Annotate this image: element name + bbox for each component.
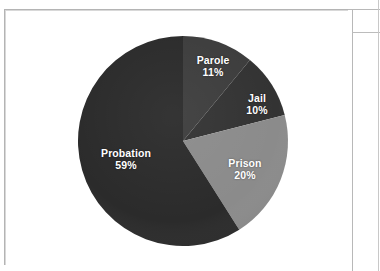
slice-label-probation-name: Probation [101,148,151,160]
slice-label-jail-name: Jail [246,93,267,105]
pie-svg [5,10,348,265]
side-panel-vertical-rule [352,9,353,271]
page-canvas: Parole 11% Jail 10% Prison 20% Probation… [0,0,380,271]
slice-label-prison-name: Prison [228,158,261,170]
pie-shading-overlay [78,36,288,246]
slice-label-jail-value: 10% [246,105,267,117]
slice-label-prison-value: 20% [228,170,261,182]
slice-label-parole-name: Parole [197,55,230,67]
pie-graphic: Parole 11% Jail 10% Prison 20% Probation… [5,10,348,265]
slice-label-probation-value: 59% [101,160,151,172]
slice-label-parole-value: 11% [197,67,230,79]
side-panel-divider-rule [352,32,380,33]
page-right-edge-rule [378,0,379,271]
slice-label-jail: Jail 10% [246,93,267,117]
slice-label-prison: Prison 20% [228,158,261,182]
slice-label-parole: Parole 11% [197,55,230,79]
slice-label-probation: Probation 59% [101,148,151,172]
pie-chart: Parole 11% Jail 10% Prison 20% Probation… [5,10,348,265]
